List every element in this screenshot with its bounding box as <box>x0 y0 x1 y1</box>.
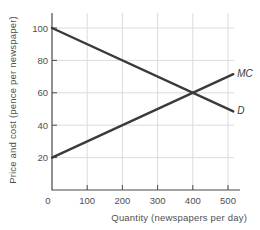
x-tick-label: 300 <box>150 195 166 206</box>
y-tick-label: 60 <box>37 87 48 98</box>
x-tick-label: 500 <box>220 195 236 206</box>
y-tick-label: 40 <box>37 120 48 131</box>
series-label-D: D <box>237 105 244 116</box>
series-line-D <box>52 28 233 111</box>
y-tick-label: 80 <box>37 55 48 66</box>
newspaper-market-chart: 010020030040050020406080100 DMC Price an… <box>0 0 260 230</box>
x-tick-label: 100 <box>79 195 95 206</box>
x-tick-label: 0 <box>45 195 50 206</box>
x-tick-label: 200 <box>114 195 130 206</box>
tick-labels: 010020030040050020406080100 <box>32 23 236 207</box>
price-quantity-plot: 010020030040050020406080100 DMC Price an… <box>0 0 260 230</box>
y-tick-label: 100 <box>32 23 48 34</box>
series-line-MC <box>52 74 233 157</box>
y-tick-label: 20 <box>37 152 48 163</box>
tick-marks <box>52 28 228 190</box>
x-axis-title: Quantity (newspapers per day) <box>111 212 247 223</box>
y-axis-title: Price and cost (pence per newspaper) <box>7 16 18 184</box>
series-label-MC: MC <box>237 68 253 79</box>
x-tick-label: 400 <box>185 195 201 206</box>
